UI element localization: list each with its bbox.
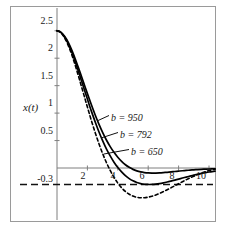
x-tick-label-8: 8 — [165, 170, 179, 181]
x-tick-label-6: 6 — [135, 170, 149, 181]
series-annotation-b-650: b = 650 — [131, 146, 163, 157]
y-tick-label-0-5: 0.5 — [29, 125, 53, 136]
y-tick-label-1-5: 1.5 — [29, 70, 53, 81]
x-tick-label-10: 10 — [192, 170, 210, 181]
y-tick-label-2-5: 2.5 — [29, 15, 53, 26]
y-tick-label-2: 2 — [29, 42, 53, 53]
reference-line-label-minus-0-3: -0.3 — [24, 173, 53, 184]
annotation-leader-0 — [97, 116, 109, 122]
y-tick-label-1: 1 — [29, 97, 53, 108]
x-tick-label-4: 4 — [106, 170, 120, 181]
series-annotation-b-792: b = 792 — [120, 129, 152, 140]
series-line-b-792 — [57, 31, 215, 185]
figure: x(t) 2.5 2 1.5 1 0.5 -0.3 2 4 6 8 10 b =… — [0, 0, 229, 232]
series-annotation-b-950: b = 950 — [111, 112, 143, 123]
x-tick-label-2: 2 — [76, 170, 90, 181]
